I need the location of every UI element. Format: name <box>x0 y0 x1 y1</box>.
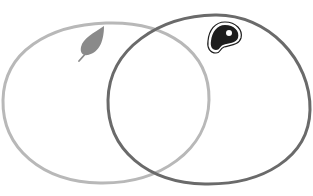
steak-bone <box>226 30 232 36</box>
plant-set-outline <box>3 23 209 183</box>
venn-diagram <box>0 0 313 196</box>
leaf-icon <box>79 26 104 61</box>
set-plant <box>3 23 209 183</box>
steak-icon <box>208 22 242 53</box>
